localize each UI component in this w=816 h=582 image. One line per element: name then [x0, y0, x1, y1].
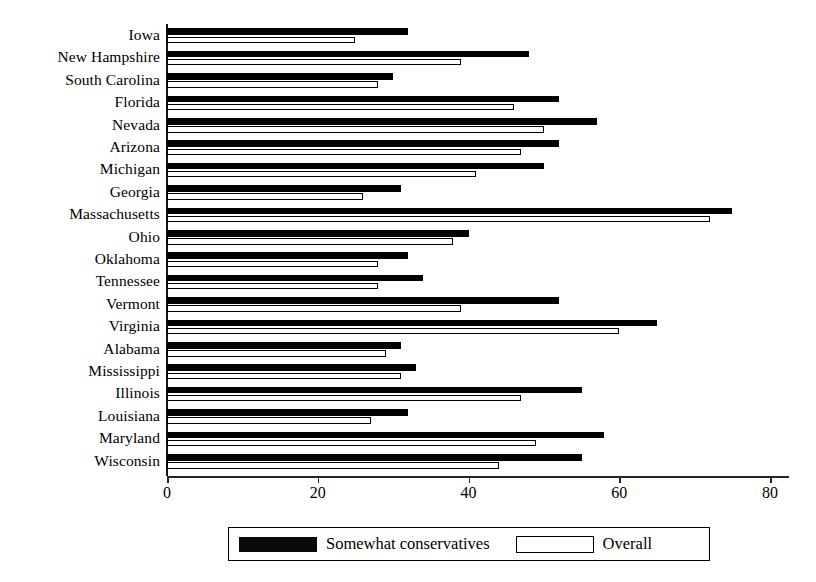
y-axis-label-georgia: Georgia [110, 184, 160, 200]
y-axis-category-labels: IowaNew HampshireSouth CarolinaFloridaNe… [0, 26, 160, 474]
bar-overall [167, 417, 371, 423]
bar-somewhat-conservatives [167, 118, 597, 125]
bar-somewhat-conservatives [167, 73, 393, 80]
y-axis-label-south-carolina: South Carolina [65, 72, 160, 88]
x-tick-label-60: 60 [611, 484, 627, 502]
bar-somewhat-conservatives [167, 163, 544, 170]
y-axis-label-michigan: Michigan [100, 161, 160, 177]
bar-overall [167, 328, 619, 334]
y-axis-label-mississippi: Mississippi [88, 363, 160, 379]
y-axis-label-illinois: Illinois [115, 385, 160, 401]
y-axis-label-massachusetts: Massachusetts [69, 206, 160, 222]
bar-group [167, 340, 770, 362]
y-axis-label-maryland: Maryland [99, 430, 160, 446]
bar-somewhat-conservatives [167, 28, 408, 35]
x-axis-line [167, 476, 789, 478]
bar-overall [167, 261, 378, 267]
y-axis-label-tennessee: Tennessee [96, 273, 160, 289]
x-tick-mark [770, 476, 772, 483]
bar-somewhat-conservatives [167, 96, 559, 103]
bar-group [167, 183, 770, 205]
bar-somewhat-conservatives [167, 252, 408, 259]
legend-swatch-filled-icon [239, 537, 317, 552]
bar-somewhat-conservatives [167, 297, 559, 304]
bar-group [167, 362, 770, 384]
y-axis-label-nevada: Nevada [112, 117, 160, 133]
bar-group [167, 205, 770, 227]
bar-overall [167, 81, 378, 87]
bar-overall [167, 126, 544, 132]
y-axis-label-louisiana: Louisiana [98, 408, 160, 424]
bar-somewhat-conservatives [167, 140, 559, 147]
x-tick-mark [619, 476, 621, 483]
bar-group [167, 93, 770, 115]
bar-somewhat-conservatives [167, 185, 401, 192]
bar-group [167, 295, 770, 317]
bar-somewhat-conservatives [167, 432, 604, 439]
bar-somewhat-conservatives [167, 409, 408, 416]
bar-somewhat-conservatives [167, 387, 582, 394]
bar-chart: IowaNew HampshireSouth CarolinaFloridaNe… [0, 0, 816, 582]
bar-overall [167, 37, 355, 43]
bar-group [167, 26, 770, 48]
y-axis-label-florida: Florida [115, 94, 160, 110]
y-axis-label-vermont: Vermont [106, 296, 160, 312]
bar-somewhat-conservatives [167, 51, 529, 58]
y-axis-label-alabama: Alabama [103, 341, 160, 357]
bar-group [167, 160, 770, 182]
bar-group [167, 116, 770, 138]
y-axis-label-arizona: Arizona [109, 139, 160, 155]
y-axis-label-iowa: Iowa [129, 27, 160, 43]
bar-somewhat-conservatives [167, 230, 469, 237]
bar-overall [167, 440, 536, 446]
plot-area [167, 26, 770, 474]
bar-group [167, 407, 770, 429]
legend-label-somewhat-conservatives: Somewhat conservatives [326, 535, 490, 553]
bar-somewhat-conservatives [167, 320, 657, 327]
bar-somewhat-conservatives [167, 364, 416, 371]
bar-overall [167, 305, 461, 311]
bar-overall [167, 171, 476, 177]
bar-group [167, 250, 770, 272]
x-tick-mark [167, 476, 169, 483]
bar-somewhat-conservatives [167, 342, 401, 349]
x-tick-label-40: 40 [461, 484, 477, 502]
bar-group [167, 429, 770, 451]
bar-group [167, 48, 770, 70]
bar-overall [167, 149, 521, 155]
bar-group [167, 317, 770, 339]
bar-group [167, 272, 770, 294]
x-tick-mark [318, 476, 320, 483]
bar-group [167, 71, 770, 93]
y-axis-label-oklahoma: Oklahoma [95, 251, 160, 267]
bar-group [167, 138, 770, 160]
bar-somewhat-conservatives [167, 208, 732, 215]
legend-label-overall: Overall [603, 535, 652, 553]
bar-overall [167, 216, 710, 222]
bar-overall [167, 193, 363, 199]
bar-somewhat-conservatives [167, 454, 582, 461]
bar-group [167, 228, 770, 250]
bar-overall [167, 59, 461, 65]
bar-overall [167, 395, 521, 401]
legend-swatch-outlined-icon [516, 536, 594, 553]
x-tick-label-0: 0 [163, 484, 171, 502]
bar-overall [167, 238, 453, 244]
y-axis-label-new-hampshire: New Hampshire [58, 49, 160, 65]
legend-item-somewhat-conservatives: Somewhat conservatives [239, 528, 490, 560]
x-tick-label-80: 80 [762, 484, 778, 502]
bar-overall [167, 350, 386, 356]
bar-overall [167, 104, 514, 110]
x-tick-mark [469, 476, 471, 483]
bar-overall [167, 283, 378, 289]
bar-overall [167, 373, 401, 379]
bar-somewhat-conservatives [167, 275, 423, 282]
bar-group [167, 384, 770, 406]
bar-overall [167, 462, 499, 468]
y-axis-label-wisconsin: Wisconsin [94, 453, 160, 469]
y-axis-label-ohio: Ohio [129, 229, 160, 245]
chart-legend: Somewhat conservatives Overall [228, 527, 710, 561]
legend-item-overall: Overall [516, 528, 652, 560]
y-axis-label-virginia: Virginia [109, 318, 160, 334]
bar-group [167, 452, 770, 474]
